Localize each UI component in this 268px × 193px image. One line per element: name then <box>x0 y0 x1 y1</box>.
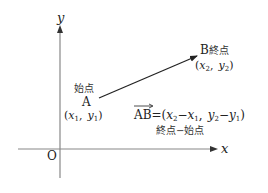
formula-caption: 終点−始点 <box>156 124 204 136</box>
formula-text: AB=(x2−x1,y2−y1) <box>133 108 245 123</box>
vector-formula: AB=(x2−x1,y2−y1) 終点−始点 <box>133 104 245 136</box>
x-axis-arrow-icon <box>210 146 218 152</box>
y-axis-label: y <box>56 10 65 25</box>
point-b-coords: (x2,y2) <box>195 59 233 73</box>
point-a-coords: (x1,y1) <box>64 109 102 123</box>
start-point-label: 始点 <box>74 82 94 94</box>
x-axis-label: x <box>221 141 229 156</box>
vector-diagram: y x O 始点 A (x1,y1) B 終点 (x2,y2) AB=(x2−x… <box>0 0 268 193</box>
y-axis-arrow-icon <box>57 25 63 33</box>
vector-ab-arrow <box>99 56 197 98</box>
end-point-label: 終点 <box>209 44 229 56</box>
point-b-label: B <box>200 43 209 57</box>
y-axis <box>57 25 63 178</box>
origin-label: O <box>47 149 57 163</box>
point-a-label: A <box>81 95 91 109</box>
